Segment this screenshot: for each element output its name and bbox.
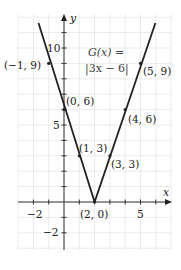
y-tick-label-5: 5 (53, 119, 60, 131)
y-tick-label-10: 10 (47, 42, 60, 54)
point-0-6 (62, 108, 65, 111)
point-label-5-9: (5, 9) (143, 65, 171, 77)
point-label-0-6: (0, 6) (66, 95, 94, 107)
point-label-neg1-9: (−1, 9) (4, 59, 41, 71)
point-3-3 (108, 154, 111, 157)
y-tick-label-neg2: −2 (43, 226, 58, 238)
function-label-line1: G(x) = (88, 46, 124, 59)
x-axis-label: x (163, 186, 170, 199)
y-axis-label: y (69, 12, 77, 25)
x-tick-label-neg2: −2 (27, 208, 42, 220)
point-5-9 (139, 62, 142, 65)
function-label-line2: |3x − 6| (85, 62, 129, 76)
point-4-6 (124, 108, 127, 111)
point-label-2-0: (2, 0) (80, 208, 108, 220)
point-2-0 (93, 200, 96, 203)
point-neg1-9 (47, 62, 50, 65)
point-label-4-6: (4, 6) (128, 113, 156, 125)
graph-canvas: x −2 5 y 10 5 −2 (0, 0, 181, 270)
point-label-3-3: (3, 3) (111, 158, 139, 170)
point-label-1-3: (1, 3) (79, 142, 107, 154)
x-tick-label-5: 5 (137, 208, 144, 220)
point-1-3 (78, 154, 81, 157)
